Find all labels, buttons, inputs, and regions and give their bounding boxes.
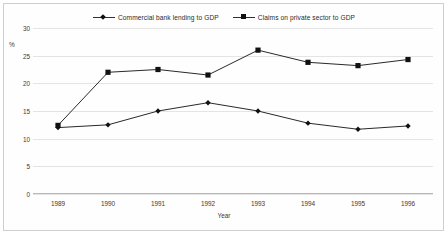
chart-legend: Commercial bank lending to GDP Claims on… [0,13,448,21]
data-point-marker[interactable] [205,100,210,105]
legend-label-series-1: Claims on private sector to GDP [258,14,355,21]
legend-item-claims-private-sector[interactable]: Claims on private sector to GDP [233,13,355,21]
y-tick-label: 25 [23,52,30,59]
x-tick-label: 1989 [51,200,65,207]
series-line-0 [58,103,408,130]
x-tick-label: 1991 [151,200,165,207]
y-tick-label: 30 [23,25,30,32]
data-point-marker[interactable] [355,127,360,132]
data-point-marker[interactable] [155,67,160,72]
x-axis-title: Year [0,212,448,219]
data-point-marker[interactable] [205,72,210,77]
x-tick-label: 1995 [351,200,365,207]
y-tick-label: 20 [23,80,30,87]
data-point-marker[interactable] [405,123,410,128]
data-point-marker[interactable] [405,57,410,62]
x-tick-label: 1992 [201,200,215,207]
series-line-1 [58,50,408,125]
legend-label-series-0: Commercial bank lending to GDP [118,14,219,21]
data-point-marker[interactable] [255,108,260,113]
data-point-marker[interactable] [105,122,110,127]
data-point-marker[interactable] [155,108,160,113]
legend-marker-diamond-icon [93,13,115,21]
plot-area [33,28,433,194]
x-tick-label: 1994 [301,200,315,207]
data-point-marker[interactable] [255,48,260,53]
y-tick-label: 10 [23,135,30,142]
series-layer [33,28,433,194]
x-tick-label: 1990 [101,200,115,207]
data-point-marker[interactable] [305,60,310,65]
legend-marker-square-icon [233,13,255,21]
x-tick-label: 1996 [401,200,415,207]
data-point-marker[interactable] [355,63,360,68]
chart-container: Commercial bank lending to GDP Claims on… [0,0,448,235]
data-point-marker[interactable] [305,120,310,125]
y-tick-label: 15 [23,108,30,115]
y-tick-label: 0 [26,191,30,198]
x-tick-label: 1993 [251,200,265,207]
y-axis-tick-labels: 051015202530 [8,28,30,194]
gridline [33,194,433,195]
data-point-marker[interactable] [55,123,60,128]
data-point-marker[interactable] [105,70,110,75]
legend-item-commercial-bank-lending[interactable]: Commercial bank lending to GDP [93,13,219,21]
y-tick-label: 5 [26,163,30,170]
